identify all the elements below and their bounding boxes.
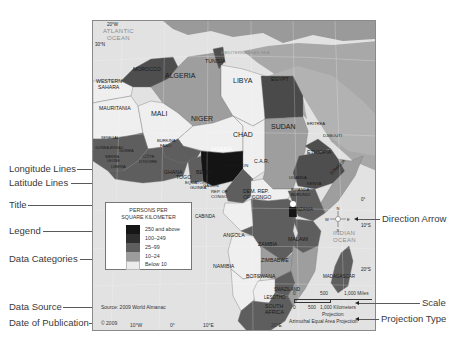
country-label-kenya: KENYA bbox=[307, 181, 321, 186]
legend-title: PERSONS PER SQUARE KILOMETER bbox=[106, 207, 191, 221]
compass-south: S bbox=[337, 228, 340, 233]
legend-swatch-25-99 bbox=[126, 243, 140, 252]
compass-west: W bbox=[325, 217, 329, 222]
lon-label-20e: 20°E bbox=[271, 322, 282, 328]
legend-swatch-100-249 bbox=[126, 234, 140, 243]
africa-population-density-map: ATLANTIC OCEAN MEDITERRANEAN SEA INDIAN … bbox=[92, 20, 376, 331]
country-label-lesotho: LESOTHO bbox=[264, 295, 286, 300]
callout-label: Latitude Lines bbox=[9, 178, 68, 188]
callout-label: Longitude Lines bbox=[9, 164, 76, 174]
callout-label: Scale bbox=[422, 298, 446, 308]
country-label-eritrea: ERITREA bbox=[307, 121, 325, 126]
projection-label: Projection: bbox=[322, 312, 345, 317]
callout-label: Date of Publication bbox=[9, 318, 89, 328]
lon-label-0: 0° bbox=[170, 322, 175, 328]
country-label-djibouti: DJIBOUTI bbox=[323, 133, 342, 138]
callout-label: Data Source bbox=[9, 302, 62, 312]
country-label-liberia: LIBERIA bbox=[111, 165, 126, 169]
map-graphic: ATLANTIC OCEAN MEDITERRANEAN SEA INDIAN … bbox=[93, 21, 376, 331]
country-label-sudan: SUDAN bbox=[271, 123, 296, 130]
country-label-madagascar: MADAGASCAR bbox=[323, 274, 356, 279]
country-label-western-sahara-2: SAHARA bbox=[98, 84, 120, 90]
country-label-egypt: EGYPT bbox=[271, 76, 289, 82]
country-label-botswana: BOTSWANA bbox=[246, 273, 276, 279]
country-label-ethiopia: ETHIOPIA bbox=[307, 149, 332, 155]
legend-label: 10–24 bbox=[145, 253, 160, 259]
sea-label-mediterranean: MEDITERRANEAN SEA bbox=[221, 50, 270, 55]
scale-miles-500: 500 bbox=[320, 291, 328, 296]
country-label-sierra-leone-2: LEONE bbox=[107, 159, 120, 163]
country-label-cote-divoire-2: D'IVOIRE bbox=[139, 159, 157, 164]
country-label-benin: BENIN bbox=[196, 169, 212, 175]
country-label-drc-2: OF CONGO bbox=[243, 194, 271, 200]
callout-label: Title bbox=[9, 200, 27, 210]
map-scale: 0 500 1,000 Miles 0 500 1,000 Kilometers… bbox=[292, 291, 376, 331]
country-label-morocco: MOROCCO bbox=[133, 66, 161, 72]
lon-label-20w: 20°W bbox=[107, 22, 119, 27]
country-label-cameroon: CAMEROON bbox=[223, 163, 248, 168]
callout-leader-line bbox=[43, 231, 97, 232]
country-label-burkina-faso-2: FASO bbox=[160, 143, 172, 148]
ocean-label-atlantic-2: OCEAN bbox=[107, 35, 130, 41]
lat-label-20s: 20°S bbox=[361, 267, 371, 272]
scale-km-1000: 1,000 Kilometers bbox=[320, 305, 356, 310]
country-label-mali: MALI bbox=[151, 110, 167, 117]
country-label-nigeria: NIGERIA bbox=[211, 146, 233, 152]
scale-km-0: 0 bbox=[293, 305, 296, 310]
callout-leader-line bbox=[358, 219, 380, 220]
country-label-rep-congo-2: CONGO bbox=[211, 194, 228, 199]
scale-bar-km bbox=[294, 302, 330, 303]
legend-swatch-250-plus bbox=[126, 225, 140, 234]
callout-label: Legend bbox=[9, 226, 41, 236]
data-source-text: Source: 2009 World Almanac bbox=[101, 304, 166, 310]
callout-label: Data Categories bbox=[9, 254, 78, 264]
country-label-niger: NIGER bbox=[191, 115, 213, 122]
legend-swatch-below-10 bbox=[126, 261, 140, 270]
country-label-south-africa-2: AFRICA bbox=[265, 309, 285, 315]
legend-label: 250 and above bbox=[145, 226, 180, 232]
legend-title-line-1: PERSONS PER bbox=[106, 207, 191, 214]
country-label-namibia: NAMIBIA bbox=[213, 263, 235, 269]
lon-label-10w: 10°W bbox=[130, 322, 142, 328]
callout-leader-line bbox=[359, 303, 420, 304]
country-label-burundi: BURUNDI bbox=[291, 192, 310, 197]
legend-label: Below 10 bbox=[145, 261, 167, 267]
callout-label: Projection Type bbox=[381, 314, 446, 324]
lon-label-10e: 10°E bbox=[203, 322, 214, 328]
legend-label: 100–249 bbox=[145, 235, 166, 241]
country-label-algeria: ALGERIA bbox=[165, 72, 196, 79]
ocean-label-indian-2: OCEAN bbox=[333, 237, 356, 243]
country-label-tanzania: TANZANIA bbox=[291, 207, 313, 212]
country-label-zambia: ZAMBIA bbox=[258, 241, 278, 247]
lat-label-0: 0° bbox=[361, 197, 366, 202]
country-label-car: C.A.R. bbox=[254, 158, 269, 164]
lat-label-30n: 30°N bbox=[95, 42, 105, 47]
country-label-uganda: UGANDA bbox=[289, 175, 307, 180]
scale-bar-miles bbox=[294, 299, 372, 300]
country-label-malawi: MALAWI bbox=[288, 236, 308, 242]
compass-east: E bbox=[347, 217, 350, 222]
map-legend: PERSONS PER SQUARE KILOMETER 250 and abo… bbox=[105, 202, 192, 270]
projection-name: Azimuthal Equal Area Projection bbox=[289, 319, 358, 324]
country-label-guinea: GUINEA bbox=[119, 149, 134, 153]
ocean-label-atlantic: ATLANTIC bbox=[103, 28, 134, 34]
country-label-tunisia: TUNISIA bbox=[205, 58, 226, 64]
country-label-cabinda: CABINDA bbox=[195, 214, 215, 219]
legend-title-line-2: SQUARE KILOMETER bbox=[106, 214, 191, 221]
country-label-gabon: GABON bbox=[203, 183, 219, 188]
country-label-libya: LIBYA bbox=[233, 77, 253, 84]
country-label-zimbabwe: ZIMBABWE bbox=[261, 257, 289, 263]
callout-leader-line bbox=[359, 319, 379, 320]
country-label-senegal: SENEGAL bbox=[101, 136, 119, 140]
compass-north: N bbox=[337, 206, 340, 211]
scale-miles-0: 0 bbox=[293, 291, 296, 296]
scale-miles-1000: 1,000 Miles bbox=[344, 291, 369, 296]
legend-swatch-10-24 bbox=[126, 252, 140, 261]
callout-label: Direction Arrow bbox=[382, 214, 446, 224]
legend-label: 25–99 bbox=[145, 244, 160, 250]
country-label-mauritania: MAURITANIA bbox=[99, 105, 131, 111]
copyright-text: © 2009 bbox=[101, 320, 117, 326]
country-label-angola: ANGOLA bbox=[223, 232, 245, 238]
lat-label-10s: 10°S bbox=[361, 223, 371, 228]
scale-km-500: 500 bbox=[308, 305, 316, 310]
